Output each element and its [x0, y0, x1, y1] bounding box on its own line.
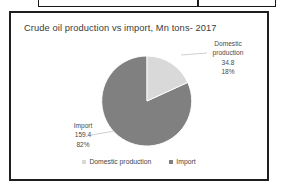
data-label-import-name: Import	[55, 121, 111, 130]
data-label-domestic-name-line1: Domestic	[197, 39, 259, 48]
data-label-domestic-percent: 18%	[197, 67, 259, 76]
cropped-toolbar-strip	[38, 0, 276, 7]
toolbar-strip-divider	[197, 0, 199, 6]
chart-legend: Domestic production Import	[11, 158, 267, 165]
data-label-import-value: 159.4	[55, 130, 111, 139]
data-label-domestic-production: Domestic production 34.8 18%	[197, 39, 259, 76]
data-label-domestic-value: 34.8	[197, 58, 259, 67]
data-label-domestic-name-line2: production	[197, 48, 259, 57]
data-label-import-percent: 82%	[55, 140, 111, 149]
chart-container: Crude oil production vs import, Mn tons-…	[9, 11, 269, 181]
legend-item-import[interactable]: Import	[169, 158, 195, 165]
legend-item-domestic-production[interactable]: Domestic production	[82, 158, 151, 165]
pie-plot-area: Domestic production 34.8 18% Import 159.…	[11, 13, 267, 179]
data-label-import: Import 159.4 82%	[55, 121, 111, 149]
legend-swatch-domestic-production	[82, 160, 86, 164]
legend-label-import: Import	[176, 158, 195, 165]
legend-label-domestic-production: Domestic production	[89, 158, 151, 165]
legend-swatch-import	[169, 160, 173, 164]
